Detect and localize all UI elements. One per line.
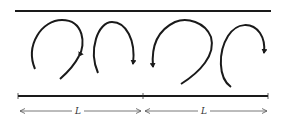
dimension-label: L xyxy=(200,106,207,116)
vortex-4-arrow-icon xyxy=(221,25,265,87)
dimension-label: L xyxy=(74,106,81,116)
dimension-L-1: L xyxy=(20,106,141,116)
vortex-2-arrow-icon xyxy=(94,22,134,73)
vortex-diagram: L L xyxy=(0,0,283,123)
dimension-L-2: L xyxy=(145,106,267,116)
vortex-1-tail xyxy=(60,56,79,79)
vortex-3-arrow-icon xyxy=(153,20,212,84)
